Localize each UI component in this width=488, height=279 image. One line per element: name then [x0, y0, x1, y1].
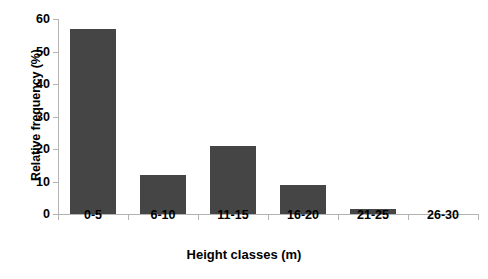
- y-axis-tick: [53, 117, 58, 118]
- y-axis-tick: [53, 19, 58, 20]
- bar: [210, 146, 256, 214]
- y-axis-tick: [53, 84, 58, 85]
- y-axis-tick-label: 50: [36, 44, 50, 60]
- x-axis-tick: [478, 214, 479, 220]
- bar: [70, 29, 116, 214]
- y-axis-tick-label: 40: [36, 76, 50, 92]
- x-axis-category-label: 16-20: [268, 208, 338, 222]
- y-axis-tick-label: 60: [36, 11, 50, 27]
- y-axis-tick: [53, 52, 58, 53]
- x-axis-title: Height classes (m): [0, 247, 488, 262]
- y-axis-tick: [53, 182, 58, 183]
- plot-area: 0102030405060: [58, 19, 478, 214]
- y-axis-tick: [53, 149, 58, 150]
- y-axis-line: [58, 19, 59, 214]
- x-axis-category-label: 21-25: [338, 208, 408, 222]
- y-axis-tick-label: 10: [36, 174, 50, 190]
- bar-chart: Relative frequency (%) 0102030405060 0-5…: [0, 0, 488, 279]
- x-axis-category-label: 0-5: [58, 208, 128, 222]
- y-axis-tick-label: 0: [43, 206, 50, 222]
- x-axis-category-label: 11-15: [198, 208, 268, 222]
- x-axis-category-label: 26-30: [408, 208, 478, 222]
- y-axis-tick-label: 20: [36, 141, 50, 157]
- x-axis-category-label: 6-10: [128, 208, 198, 222]
- y-axis-tick-label: 30: [36, 109, 50, 125]
